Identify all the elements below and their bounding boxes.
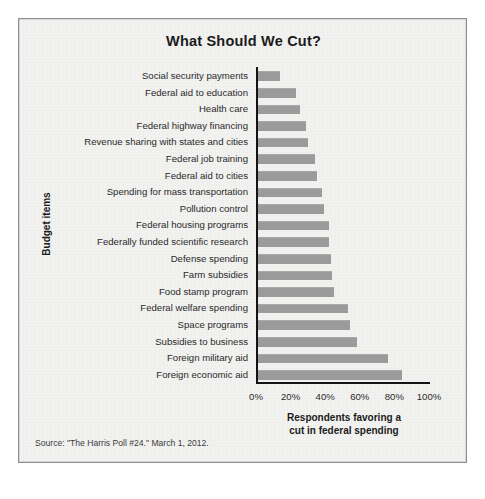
plot-area: Social security paymentsFederal aid to e… — [19, 67, 468, 387]
bar-category-label: Social security payments — [38, 70, 248, 82]
page-title: What Should We Cut? — [19, 33, 468, 49]
bar-row: Federal highway financing — [19, 119, 468, 134]
bar — [258, 254, 331, 264]
bar-row: Federal aid to education — [19, 86, 468, 101]
bar-category-label: Federally funded scientific research — [38, 236, 248, 248]
bar — [258, 121, 306, 131]
bar-row: Food stamp program — [19, 285, 468, 300]
bar-category-label: Defense spending — [38, 253, 248, 265]
bar-row: Health care — [19, 102, 468, 117]
bar-row: Federal job training — [19, 152, 468, 167]
bar-row: Federal housing programs — [19, 218, 468, 233]
bar-row: Subsidies to business — [19, 335, 468, 350]
bar-category-label: Federal highway financing — [38, 120, 248, 132]
bar-row: Foreign economic aid — [19, 368, 468, 383]
bar-category-label: Subsidies to business — [38, 336, 248, 348]
x-axis-title-line-2: cut in federal spending — [256, 424, 432, 437]
bar — [258, 171, 317, 181]
bar-category-label: Farm subsidies — [38, 269, 248, 281]
x-tick-label: 100% — [409, 391, 449, 402]
bar-row: Social security payments — [19, 69, 468, 84]
bar — [258, 154, 315, 164]
bar — [258, 221, 329, 231]
bar-category-label: Spending for mass transportation — [38, 186, 248, 198]
bar-row: Federal welfare spending — [19, 301, 468, 316]
bar — [258, 287, 334, 297]
bar-category-label: Federal housing programs — [38, 219, 248, 231]
bar-category-label: Food stamp program — [38, 286, 248, 298]
source-note: Source: "The Harris Poll #24." March 1, … — [35, 438, 209, 448]
bar-category-label: Federal aid to education — [38, 87, 248, 99]
bar — [258, 320, 350, 330]
bar-row: Defense spending — [19, 252, 468, 267]
bar-category-label: Foreign economic aid — [38, 369, 248, 381]
bar — [258, 138, 308, 148]
bar-category-label: Pollution control — [38, 203, 248, 215]
bar — [258, 237, 329, 247]
bar — [258, 271, 332, 281]
bar — [258, 71, 280, 81]
bar — [258, 88, 296, 98]
chart-figure: What Should We Cut? Budget items Social … — [18, 18, 467, 463]
bar-row: Spending for mass transportation — [19, 185, 468, 200]
bar-category-label: Federal welfare spending — [38, 302, 248, 314]
bar-row: Federal aid to cities — [19, 169, 468, 184]
bar — [258, 354, 388, 364]
bar — [258, 337, 357, 347]
bar-row: Foreign military aid — [19, 351, 468, 366]
bar — [258, 204, 324, 214]
bar-category-label: Federal aid to cities — [38, 170, 248, 182]
bar-row: Federally funded scientific research — [19, 235, 468, 250]
bar — [258, 370, 402, 380]
bar — [258, 304, 348, 314]
bar — [258, 105, 300, 115]
bar-category-label: Federal job training — [38, 153, 248, 165]
bar-category-label: Health care — [38, 103, 248, 115]
bar — [258, 188, 322, 198]
bar-row: Farm subsidies — [19, 268, 468, 283]
bar-row: Revenue sharing with states and cities — [19, 135, 468, 150]
bar-row: Space programs — [19, 318, 468, 333]
bar-category-label: Space programs — [38, 319, 248, 331]
x-axis-title: Respondents favoring a cut in federal sp… — [256, 411, 432, 437]
x-axis-title-line-1: Respondents favoring a — [256, 411, 432, 424]
bar-category-label: Revenue sharing with states and cities — [38, 136, 248, 148]
bar-row: Pollution control — [19, 202, 468, 217]
bar-category-label: Foreign military aid — [38, 352, 248, 364]
x-axis-ticks: 0%20%40%60%80%100% — [19, 391, 468, 405]
